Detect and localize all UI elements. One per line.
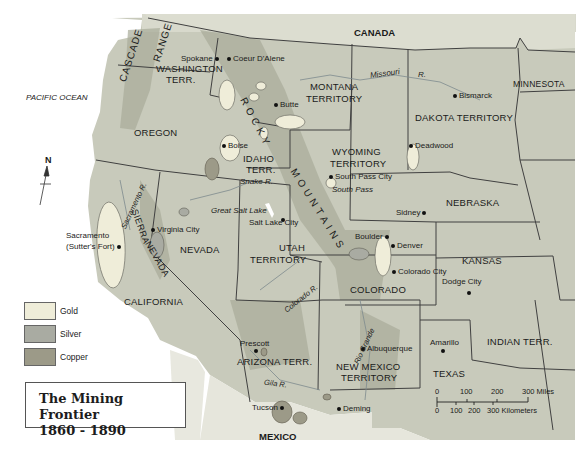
city-dot-icon [215, 57, 219, 61]
city-dodge-city: Dodge City [442, 278, 482, 286]
scale-miles-100: 100 [460, 388, 473, 396]
city-dot-icon [151, 228, 155, 232]
city-virginia-city: Virginia City [149, 226, 200, 234]
city-dot-icon [337, 407, 341, 411]
region-label-utah-2: TERRITORY [250, 255, 306, 265]
city-tucson: Tucson [252, 404, 286, 412]
city-dot-icon [279, 216, 287, 224]
legend-item-silver: Silver [24, 325, 88, 342]
city-dot-icon [422, 211, 426, 215]
region-label-texas: TEXAS [433, 369, 465, 379]
city-name: Spokane [181, 54, 213, 63]
city-name: South Pass City [335, 172, 392, 181]
water-label-pacific: PACIFIC OCEAN [26, 94, 88, 102]
water-label-snake: Snake R. [240, 178, 273, 186]
city-dot-icon [439, 347, 447, 355]
legend-label: Gold [60, 306, 78, 316]
region-label-wyoming-2: TERRITORY [330, 159, 386, 169]
city-name: Dodge City [442, 277, 482, 286]
map-date-range: 1860 - 1890 [39, 423, 185, 439]
region-label-dakota: DAKOTA TERRITORY [415, 113, 513, 123]
city-sidney: Sidney [396, 209, 428, 217]
north-label: N [45, 156, 52, 165]
city-dot-icon [280, 406, 284, 410]
scale-km-300: 300 Kilometers [487, 407, 537, 415]
region-label-california: CALIFORNIA [124, 297, 183, 307]
region-label-utah-1: UTAH [279, 243, 305, 253]
city-name: Sacramento [66, 231, 109, 240]
legend-item-gold: Gold [24, 302, 88, 319]
region-label-montana-2: TERRITORY [306, 94, 362, 104]
scale-miles-0: 0 [435, 388, 439, 396]
gold-swatch-icon [24, 302, 56, 320]
city-sacramento-sub: (Sutter's Fort) [66, 243, 123, 251]
city-name: Tucson [252, 403, 278, 412]
region-label-kansas: KANSAS [462, 256, 502, 266]
map-title-box: The Mining Frontier 1860 - 1890 [25, 382, 186, 428]
city-dot-icon [361, 347, 365, 351]
city-name: Albuquerque [367, 344, 412, 353]
legend-label: Silver [60, 329, 81, 339]
region-label-colorado: COLORADO [350, 285, 406, 295]
city-name: Boise [228, 141, 248, 150]
city-dot-icon [391, 244, 395, 248]
city-name: Deadwood [415, 141, 453, 150]
city-south-pass-city: South Pass City [327, 173, 392, 181]
city-deming: Deming [335, 405, 371, 413]
north-arrow-icon [40, 166, 51, 205]
landmark-south-pass: South Pass [332, 186, 373, 194]
city-dot-icon [329, 175, 333, 179]
city-coeur-dalene: Coeur D'Alene [225, 55, 285, 63]
city-name: Boulder [355, 232, 383, 241]
city-dot-icon [465, 289, 473, 297]
region-label-idaho-2: TERR. [246, 165, 276, 175]
city-amarillo: Amarillo [430, 339, 459, 347]
city-name: Salt Lake City [249, 218, 298, 227]
scale-km-0: 0 [435, 407, 439, 415]
copper-swatch-icon [24, 348, 56, 366]
city-butte: Butte [272, 101, 299, 109]
city-bismarck: Bismarck [451, 92, 492, 100]
water-label-great-salt-lake: Great Salt Lake [211, 207, 267, 215]
scale-km-200: 200 [468, 407, 481, 415]
city-dot-icon [227, 57, 231, 61]
region-label-nebraska: NEBRASKA [446, 198, 499, 208]
region-label-idaho-1: IDAHO [243, 154, 274, 164]
city-name: Butte [280, 100, 299, 109]
city-dot-icon [274, 103, 278, 107]
city-dot-icon [392, 270, 396, 274]
region-label-wyoming-1: WYOMING [332, 147, 381, 157]
city-sacramento: Sacramento [66, 232, 109, 240]
region-label-minnesota: MINNESOTA [513, 80, 565, 89]
city-name: Bismarck [459, 91, 492, 100]
city-dot-icon [453, 94, 457, 98]
map-title: The Mining Frontier [39, 391, 185, 423]
scale-miles-200: 200 [491, 388, 504, 396]
city-dot-icon [385, 235, 389, 239]
city-dot-icon [222, 144, 226, 148]
city-denver: Denver [389, 242, 423, 250]
legend-label: Copper [60, 352, 88, 362]
scale-miles-300: 300 Miles [522, 388, 554, 396]
city-boise: Boise [220, 142, 248, 150]
region-label-new-mexico-1: NEW MEXICO [336, 362, 400, 372]
silver-swatch-icon [24, 325, 56, 343]
country-label-mexico: MEXICO [259, 432, 296, 442]
city-dot-icon [409, 144, 413, 148]
region-label-new-mexico-2: TERRITORY [341, 373, 397, 383]
region-label-arizona: ARIZONA TERR. [237, 357, 312, 367]
city-deadwood: Deadwood [407, 142, 453, 150]
city-boulder: Boulder [355, 233, 391, 241]
region-label-montana-1: MONTANA [310, 82, 358, 92]
city-dot-icon [252, 347, 260, 355]
region-label-washington-1: WASHINGTON [156, 64, 223, 74]
country-label-canada: CANADA [354, 28, 395, 38]
region-label-oregon: OREGON [134, 128, 177, 138]
city-dot-icon [117, 245, 121, 249]
city-spokane: Spokane [181, 55, 221, 63]
city-name: Colorado City [398, 267, 446, 276]
city-name: Virginia City [157, 225, 200, 234]
city-name: Sidney [396, 208, 420, 217]
city-salt-lake-city: Salt Lake City [249, 219, 298, 227]
water-label-missouri-r: R. [418, 71, 426, 79]
